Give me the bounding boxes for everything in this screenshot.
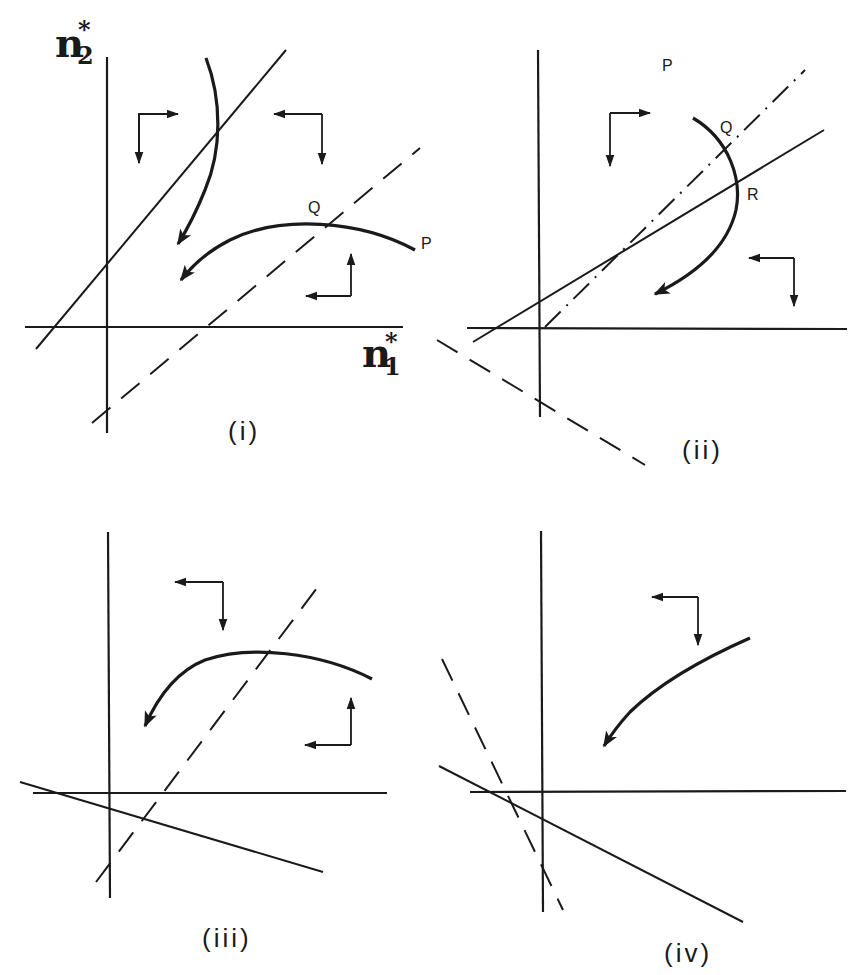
panel-i: n * 2 n * 1 Q P (i) [25,15,432,446]
point-q-label: Q [720,119,732,136]
direction-arrow-top [652,597,698,645]
trajectory [145,652,372,726]
svg-text:2: 2 [77,41,94,70]
direction-arrow-top [175,582,223,630]
trajectory-upper [178,58,218,244]
trajectory [604,638,750,746]
phase-diagram-figure: n * 2 n * 1 Q P (i) [0,0,865,975]
isocline-solid-negative [439,766,743,922]
panel-label-ii: (ii) [682,435,723,465]
y-axis [108,532,110,898]
direction-arrow-right [305,698,351,745]
x-axis-label: n * 1 [362,327,401,381]
direction-arrow-bottom-right [306,254,351,296]
y-axis [538,50,540,417]
svg-text:1: 1 [384,352,401,381]
panel-label-iv: (iv) [664,938,712,968]
isocline-solid [473,130,824,342]
direction-arrow-bottom-right [749,258,794,306]
isocline-dashed-negative [437,340,645,465]
x-axis [467,328,847,329]
svg-text:*: * [78,15,91,44]
direction-arrow-top-left [610,113,650,166]
panel-ii: P Q R (ii) [437,50,847,465]
point-r-label: R [747,186,759,203]
isocline-dashed-negative [442,659,563,910]
trajectory-p-to-left [181,224,415,280]
direction-arrow-top-left [139,114,178,163]
point-q-label: Q [308,199,320,216]
x-axis [470,791,846,792]
isocline-dashed [92,148,420,423]
y-axis [541,531,543,912]
isocline-dashed [96,580,323,882]
panel-iii: (iii) [20,532,387,953]
panel-label-i: (i) [228,416,260,446]
isocline-dash-dot [545,70,805,327]
point-p-label: P [662,57,673,74]
panel-iv: (iv) [439,531,846,968]
panel-label-iii: (iii) [202,923,252,953]
isocline-solid-negative [20,782,323,872]
isocline-solid [36,50,286,349]
direction-arrow-top-right [274,114,322,164]
y-axis-label: n * 2 [55,15,94,70]
point-p-label: P [421,235,432,252]
